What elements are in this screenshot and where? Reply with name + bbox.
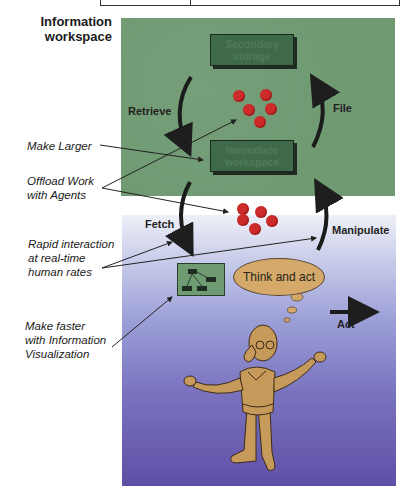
thought-bubble: Think and act (233, 258, 325, 296)
person-figure (184, 325, 326, 471)
annotation-line: Make faster (25, 319, 106, 333)
annotation-make-faster: Make faster with Information Visualizati… (25, 319, 106, 361)
offload-line-1 (102, 120, 236, 188)
annotation-rapid-interaction: Rapid interaction at real-time human rat… (28, 237, 114, 279)
fetch-label: Fetch (145, 218, 174, 230)
manipulate-label: Manipulate (332, 224, 389, 236)
annotation-line: Rapid interaction (28, 237, 114, 251)
visualization-thumbnail (177, 263, 225, 296)
annotation-line: with Agents (27, 188, 94, 202)
offload-line-2 (102, 188, 228, 212)
annotation-line: Offload Work (27, 174, 94, 188)
annotation-line: Visualization (25, 347, 106, 361)
annotation-line: human rates (28, 265, 114, 279)
act-label: Act (337, 318, 355, 330)
manipulate-arrow (318, 185, 327, 250)
visualization-line (112, 297, 172, 347)
annotation-offload-agents: Offload Work with Agents (27, 174, 94, 202)
retrieve-label: Retrieve (128, 105, 171, 117)
file-label: File (333, 102, 352, 114)
annotation-line: Make Larger (27, 139, 92, 153)
network-graph-icon (178, 264, 224, 295)
annotation-line: with Information (25, 333, 106, 347)
retrieve-arrow (180, 77, 191, 150)
annotation-line: at real-time (28, 251, 114, 265)
annotation-make-larger: Make Larger (27, 139, 92, 153)
file-arrow (313, 80, 323, 147)
fetch-arrow (181, 182, 190, 250)
